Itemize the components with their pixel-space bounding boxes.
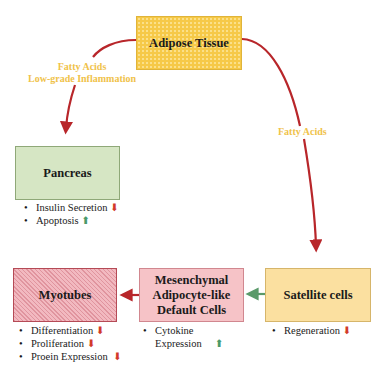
- down-arrow-icon: ⬇: [110, 202, 119, 213]
- myotubes-title: Myotubes: [39, 288, 92, 303]
- edge-label-adipose-pancreas: Fatty Acids Low-grade Inflammation: [28, 61, 136, 85]
- up-arrow-icon: ⬆: [215, 338, 224, 349]
- satellite-effects: Regeneration ⬇: [272, 324, 351, 337]
- effect-item: Proliferation ⬇: [19, 337, 122, 350]
- mesenchymal-effects: Cytokine Expression ⬆: [143, 324, 224, 350]
- myotubes-effects: Differentiation ⬇ Proliferation ⬇ Proein…: [19, 324, 122, 363]
- arrow-adipose-to-satellite: [242, 39, 300, 126]
- down-arrow-icon: ⬇: [96, 325, 105, 336]
- effect-item: Regeneration ⬇: [272, 324, 351, 337]
- arrow-adipose-to-pancreas: [93, 40, 136, 57]
- effect-item: Differentiation ⬇: [19, 324, 122, 337]
- down-arrow-icon: ⬇: [343, 325, 352, 336]
- effect-item: Insulin Secretion ⬇: [24, 201, 119, 214]
- pancreas-node: Pancreas: [15, 146, 120, 200]
- effect-item: Apoptosis ⬆: [24, 214, 119, 227]
- up-arrow-icon: ⬆: [81, 215, 90, 226]
- down-arrow-icon: ⬇: [113, 351, 122, 362]
- down-arrow-icon: ⬇: [87, 338, 96, 349]
- satellite-cells-node: Satellite cells: [265, 268, 371, 322]
- effect-item: Proein Expression ⬇: [19, 350, 122, 363]
- adipose-tissue-title: Adipose Tissue: [149, 36, 229, 51]
- myotubes-node: Myotubes: [13, 268, 117, 322]
- pancreas-effects: Insulin Secretion ⬇ Apoptosis ⬆: [24, 201, 119, 227]
- effect-item: Cytokine Expression ⬆: [143, 324, 224, 350]
- satellite-cells-title: Satellite cells: [283, 288, 352, 303]
- edge-label-adipose-satellite: Fatty Acids: [278, 126, 327, 138]
- mesenchymal-adipocyte-node: Mesenchymal Adipocyte-like Default Cells: [139, 268, 244, 322]
- pancreas-title: Pancreas: [43, 166, 91, 181]
- adipose-tissue-node: Adipose Tissue: [136, 16, 242, 70]
